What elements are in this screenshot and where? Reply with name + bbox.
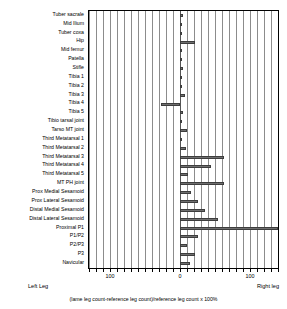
axis-tick <box>145 269 146 272</box>
category-label: Third Metatarsal 1 <box>42 136 84 141</box>
category-label: Tarso MT joint <box>52 127 84 132</box>
category-label: Mid Ilium <box>63 21 84 26</box>
category-label: Distal Lateral Sesamoid <box>29 216 84 221</box>
bar <box>180 244 187 247</box>
axis-tick <box>152 269 153 272</box>
bar <box>180 227 278 230</box>
bar <box>180 253 195 256</box>
category-axis-labels: Tuber sacraleMid IliumTuber coxaHipMid f… <box>0 10 86 269</box>
axis-tick <box>194 269 195 272</box>
axis-tick <box>201 269 202 272</box>
bar <box>180 76 182 79</box>
bar <box>180 14 183 17</box>
category-label: Third Metatarsal 4 <box>42 162 84 167</box>
category-label: Tibia 3 <box>69 92 84 97</box>
axis-tick <box>166 269 167 272</box>
category-label: Navicular <box>62 260 84 265</box>
category-label: P1/P2 <box>70 233 84 238</box>
category-label: Stifle <box>72 65 84 70</box>
axis-tick <box>131 269 132 272</box>
axis-tick <box>243 269 244 272</box>
axis-tick <box>257 269 258 272</box>
bar <box>180 147 186 150</box>
bar <box>180 120 182 123</box>
axis-tick <box>89 269 90 272</box>
axis-tick-label: 0 <box>179 273 182 279</box>
bar <box>180 67 183 70</box>
axis-tick-label: 100 <box>106 273 115 279</box>
category-label: Tibia 5 <box>69 109 84 114</box>
axis-tick <box>250 269 251 272</box>
axis-tick <box>278 269 279 272</box>
bar <box>180 32 182 35</box>
bar <box>180 138 182 141</box>
axis-tick <box>229 269 230 272</box>
lameness-bar-chart: Tuber sacraleMid IliumTuber coxaHipMid f… <box>0 0 287 309</box>
bar <box>180 191 191 194</box>
axis-tick <box>103 269 104 272</box>
axis-tick <box>159 269 160 272</box>
axis-tick <box>215 269 216 272</box>
axis-tick <box>236 269 237 272</box>
axis-tick <box>271 269 272 272</box>
bar <box>180 173 188 176</box>
category-label: Prox Medial Sesamoid <box>32 189 84 194</box>
category-label: Tibia 2 <box>69 83 84 88</box>
category-label: Third Metatarsal 5 <box>42 171 84 176</box>
bar <box>180 111 183 114</box>
bar <box>180 200 198 203</box>
axis-tick <box>124 269 125 272</box>
category-label: Patella <box>68 56 84 61</box>
category-label: Tuber coxa <box>58 30 84 35</box>
bar <box>180 129 187 132</box>
category-label: Tibia 4 <box>69 100 84 105</box>
bar <box>180 209 205 212</box>
bar <box>180 156 224 159</box>
axis-tick <box>222 269 223 272</box>
x-axis-tick-labels: 1000100 <box>0 273 287 282</box>
plot-area <box>88 10 279 269</box>
bar <box>180 218 218 221</box>
axis-tick <box>96 269 97 272</box>
bar <box>161 103 180 106</box>
bar <box>180 182 224 185</box>
category-label: Third Metatarsal 2 <box>42 145 84 150</box>
left-leg-label: Left Leg <box>28 283 48 290</box>
axis-tick <box>180 269 181 272</box>
axis-tick <box>117 269 118 272</box>
axis-tick <box>208 269 209 272</box>
category-label: Tibio tarsal joint <box>48 118 84 123</box>
category-label: P3 <box>78 251 84 256</box>
category-label: Prox Lateral Sesamoid <box>32 198 84 203</box>
axis-tick <box>138 269 139 272</box>
right-leg-label: Right leg <box>257 283 279 290</box>
bar <box>180 85 182 88</box>
category-label: Tuber sacrale <box>52 12 84 17</box>
category-label: Hip <box>76 38 84 43</box>
bar <box>180 235 198 238</box>
category-label: Proximal P1 <box>56 225 84 230</box>
category-label: Tibia 1 <box>69 74 84 79</box>
category-label: Third Metatarsal 3 <box>42 154 84 159</box>
bar <box>180 41 195 44</box>
axis-tick <box>264 269 265 272</box>
bar <box>180 23 182 26</box>
bar <box>180 58 182 61</box>
bar <box>180 94 185 97</box>
bar <box>180 165 211 168</box>
axis-tick-label: 100 <box>246 273 255 279</box>
bar <box>180 49 182 52</box>
gridline <box>278 11 279 268</box>
category-label: P2/P3 <box>70 242 84 247</box>
bar <box>180 262 190 265</box>
axis-tick <box>187 269 188 272</box>
x-axis-title: (lame leg count-reference leg count)/ref… <box>0 296 287 303</box>
axis-tick <box>173 269 174 272</box>
axis-tick <box>110 269 111 272</box>
bar-rows <box>89 11 278 268</box>
category-label: Distal Medial Sesamoid <box>30 207 84 212</box>
category-label: Mid femur <box>61 47 84 52</box>
category-label: MT PH joint <box>57 180 84 185</box>
